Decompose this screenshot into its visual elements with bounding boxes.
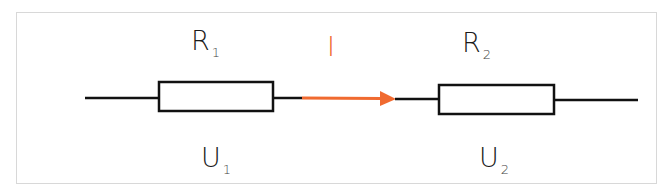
voltage-1-label: U1	[201, 144, 231, 176]
resistor-1-label: R1	[191, 27, 220, 59]
resistor-1-symbol	[159, 82, 273, 111]
voltage-2-label: U2	[479, 144, 509, 176]
resistor-2-symbol	[439, 85, 554, 114]
circuit-drawing	[0, 0, 669, 195]
resistor-1-name: R	[191, 25, 210, 56]
current-label: I	[327, 33, 335, 60]
current-arrow-head-icon	[380, 91, 396, 106]
resistor-1-subscript: 1	[212, 45, 220, 60]
voltage-1-subscript: 1	[223, 162, 231, 177]
current-arrow-shaft	[302, 98, 382, 99]
resistor-2-name: R	[462, 27, 481, 58]
voltage-2-name: U	[479, 142, 499, 173]
resistor-2-label: R2	[462, 29, 491, 61]
voltage-2-subscript: 2	[501, 162, 509, 177]
voltage-1-name: U	[201, 142, 221, 173]
resistor-2-subscript: 2	[483, 47, 491, 62]
